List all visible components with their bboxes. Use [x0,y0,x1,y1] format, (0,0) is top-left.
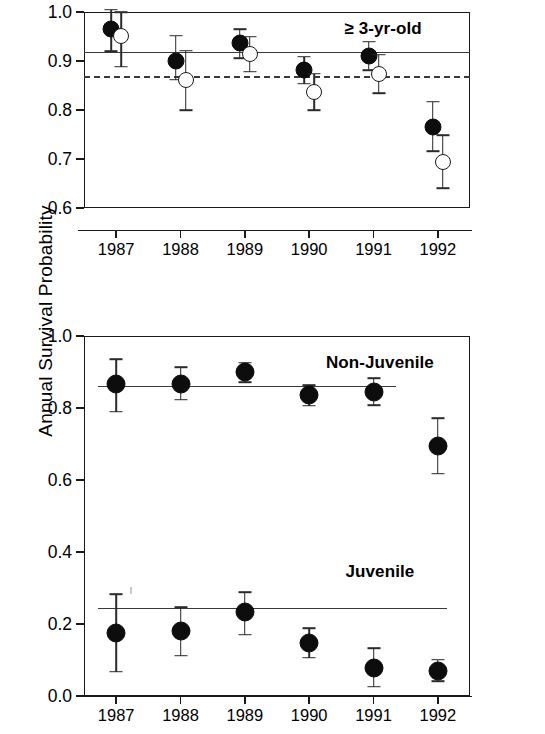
y-axis-tick-label: 0.9 [48,51,72,72]
error-bar-cap [431,680,444,682]
non-juvenile-trend-line [98,386,396,387]
dashed-reference-line [84,76,470,78]
y-axis-tick [76,207,84,208]
data-point-filled[interactable] [424,119,441,136]
x-axis-tick [437,230,438,238]
x-axis-tick-label: 1991 [355,706,392,725]
y-axis-tick [76,551,84,552]
error-bar-cap [431,659,444,661]
x-axis-tick [180,230,181,238]
error-bar-cap [174,367,187,369]
error-bar-cap [105,9,118,11]
y-axis-tick-label: 0.8 [48,100,72,121]
error-bar-cap [179,50,192,52]
error-bar-cap [110,411,123,413]
y-axis-tick [76,335,84,336]
error-bar-cap [115,11,128,13]
x-axis-tick-label: 1989 [226,706,263,725]
y-axis-tick [76,407,84,408]
y-axis-tick [76,479,84,480]
data-point-filled[interactable] [107,375,126,394]
error-bar-cap [110,359,123,361]
data-point-filled[interactable] [364,382,383,401]
x-axis-tick [308,230,309,238]
data-point-open[interactable] [113,28,129,44]
data-point-filled[interactable] [296,62,313,79]
data-point-filled[interactable] [360,48,377,65]
error-bar-cap [303,628,316,630]
y-axis-tick-label: 0.2 [48,614,72,635]
data-point-filled[interactable] [300,386,319,405]
y-axis-tick-label: 0.7 [48,149,72,170]
x-axis-tick-label: 1992 [419,240,456,259]
error-bar-cap [174,607,187,609]
error-bar-cap [179,109,192,111]
x-axis-tick [308,696,309,704]
error-bar-cap [110,593,123,595]
y-axis-tick [76,109,84,110]
x-axis-tick-label: 1990 [291,240,328,259]
error-bar-cap [372,54,385,56]
y-axis-tick-label: 0.8 [48,398,72,419]
data-point-filled[interactable] [107,623,126,642]
error-bar-cap [436,135,449,137]
x-axis-rule [78,230,472,231]
x-axis-tick [180,696,181,704]
x-axis-tick [373,230,374,238]
y-axis-tick-label: 0.6 [48,198,72,219]
data-point-filled[interactable] [300,634,319,653]
x-axis-tick [115,696,116,704]
data-point-filled[interactable] [235,363,254,382]
y-axis-tick [76,158,84,159]
x-axis-tick-label: 1987 [98,706,135,725]
error-bar-cap [431,473,444,475]
y-axis-tick-label: 1.0 [48,326,72,347]
error-bar-cap [115,66,128,68]
data-point-filled[interactable] [428,661,447,680]
error-bar-cap [367,377,380,379]
error-bar-cap [174,399,187,401]
error-bar-cap [303,405,316,407]
data-point-open[interactable] [371,66,387,82]
x-axis-tick [244,696,245,704]
x-axis-tick [437,696,438,704]
image-artifact-speck [130,587,132,594]
plot-frame-top [84,12,470,208]
plot-frame-bottom [84,336,470,696]
x-axis-tick [373,696,374,704]
x-axis-rule [78,696,472,697]
data-point-filled[interactable] [171,374,190,393]
y-axis-tick [76,60,84,61]
error-bar-cap [105,50,118,52]
figure-root: Annual Survival Probability Annual Survi… [0,0,545,734]
juvenile-label: Juvenile [346,562,415,582]
y-axis-tick-label: 0.0 [48,686,72,707]
data-point-filled[interactable] [428,437,447,456]
error-bar-cap [233,28,246,30]
error-bar-cap [238,634,251,636]
x-axis-tick [244,230,245,238]
data-point-filled[interactable] [235,603,254,622]
data-point-open[interactable] [178,72,194,88]
error-bar-cap [238,592,251,594]
y-axis-tick-label: 1.0 [48,2,72,23]
x-axis-tick-label: 1989 [226,240,263,259]
error-bar-cap [169,35,182,37]
data-point-filled[interactable] [167,53,184,70]
data-point-open[interactable] [242,46,258,62]
error-bar-cap [243,71,256,73]
panel-annotation: ≥ 3-yr-old [344,19,421,39]
error-bar-cap [372,93,385,95]
error-bar-cap [426,101,439,103]
x-axis-tick-label: 1988 [162,706,199,725]
data-point-filled[interactable] [171,621,190,640]
x-axis-tick-label: 1992 [419,706,456,725]
data-point-filled[interactable] [364,658,383,677]
y-axis-tick-label: 0.4 [48,542,72,563]
panel-three-year-old: 0.60.70.80.91.0198719881989199019911992≥… [84,12,470,208]
x-axis-tick-label: 1991 [355,240,392,259]
x-axis-tick-label: 1990 [291,706,328,725]
data-point-open[interactable] [435,154,451,170]
data-point-open[interactable] [306,84,322,100]
error-bar-cap [243,36,256,38]
